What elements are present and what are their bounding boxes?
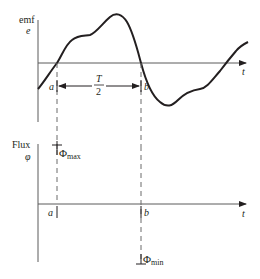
half-period-numerator: T bbox=[96, 73, 103, 84]
phi-min-subscript: min bbox=[151, 258, 163, 267]
flux-y-symbol: φ bbox=[25, 151, 31, 162]
flux-y-label: Flux bbox=[12, 139, 30, 150]
emf-point-b-label: b bbox=[144, 81, 149, 92]
half-period-denominator: 2 bbox=[96, 86, 101, 97]
emf-graph: emf e t a b T 2 bbox=[19, 14, 248, 150]
phi-max-symbol: Φ bbox=[59, 147, 67, 159]
emf-flux-diagram: emf e t a b T 2 Flux φ t bbox=[0, 0, 260, 279]
emf-t-label: t bbox=[242, 66, 245, 77]
emf-point-a-label: a bbox=[49, 81, 54, 92]
phi-min-label: Φmin bbox=[143, 253, 164, 267]
emf-y-symbol: e bbox=[26, 25, 31, 36]
emf-curve bbox=[38, 14, 248, 105]
flux-point-b-label: b bbox=[144, 207, 149, 218]
flux-point-a-label: a bbox=[48, 207, 53, 218]
phi-max-subscript: max bbox=[67, 152, 81, 161]
flux-graph: Flux φ t Φmax a b Φmin bbox=[12, 139, 246, 267]
flux-t-label: t bbox=[242, 208, 245, 219]
phi-min-symbol: Φ bbox=[143, 253, 151, 265]
emf-y-label: emf bbox=[19, 14, 35, 25]
phi-max-label: Φmax bbox=[59, 147, 81, 161]
